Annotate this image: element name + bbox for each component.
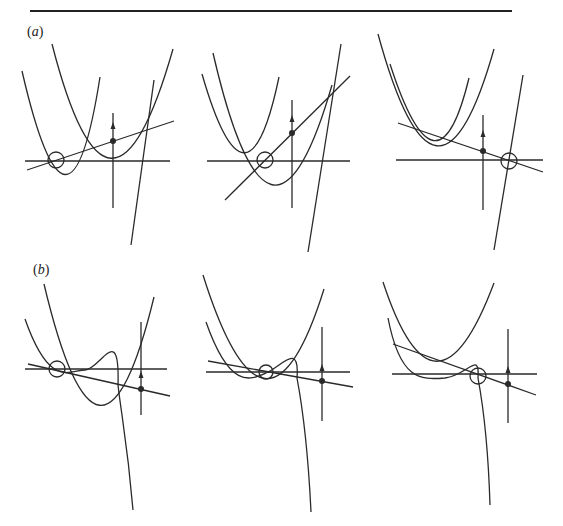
- secant-line: [398, 123, 543, 172]
- curve-2: [388, 318, 490, 505]
- panel-label-a: (a): [27, 24, 43, 40]
- filled-dot: [110, 138, 116, 144]
- curve-2: [25, 319, 133, 510]
- arrow-up-icon: [139, 371, 144, 378]
- panel-a3: [378, 34, 543, 250]
- curve-2: [390, 64, 469, 141]
- curve-1: [202, 74, 279, 153]
- curve-1: [383, 282, 494, 361]
- panel-label-b: (b): [33, 262, 49, 278]
- panels-group: [22, 34, 543, 512]
- curve-2: [213, 53, 332, 185]
- filled-dot: [505, 381, 511, 387]
- filled-dot: [480, 148, 486, 154]
- arrow-up-icon: [111, 122, 116, 129]
- panel-b3: [383, 282, 537, 505]
- arrow-up-icon: [320, 364, 325, 371]
- secant-line: [225, 76, 350, 200]
- panel-a1: [22, 44, 174, 245]
- curve-1: [44, 284, 154, 405]
- panel-a2: [202, 44, 350, 252]
- figure-canvas: [0, 0, 563, 526]
- secant-line: [393, 344, 536, 395]
- filled-dot: [319, 378, 325, 384]
- secant-line: [208, 361, 353, 387]
- panel-b1: [25, 284, 170, 510]
- curve-1: [378, 34, 494, 146]
- filled-dot: [138, 386, 144, 392]
- steep-line: [131, 80, 154, 245]
- curve-2: [206, 322, 311, 512]
- arrow-up-icon: [481, 130, 486, 137]
- arrow-up-icon: [506, 366, 511, 373]
- filled-dot: [289, 130, 295, 136]
- arrow-up-icon: [290, 115, 295, 122]
- steep-line: [494, 75, 523, 250]
- panel-b2: [203, 275, 353, 512]
- steep-line: [308, 44, 341, 252]
